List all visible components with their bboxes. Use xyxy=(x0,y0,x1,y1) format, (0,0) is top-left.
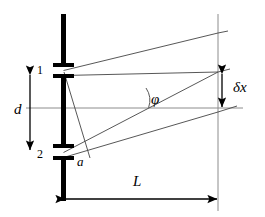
path-difference-label: a xyxy=(77,155,84,168)
slit-2-label: 2 xyxy=(37,148,43,160)
slit-separation-label: d xyxy=(14,102,22,117)
ray-2-lower xyxy=(64,112,219,158)
ray-1-lower-extension xyxy=(218,69,230,72)
ray-2-upper xyxy=(64,72,219,153)
ray-1-upper xyxy=(64,33,219,71)
screen-distance-label: L xyxy=(133,174,141,189)
ray-2-lower-extension xyxy=(218,106,237,112)
angle-label: φ xyxy=(151,92,159,107)
fringe-shift-label: δx xyxy=(233,80,247,95)
slit-1-label: 1 xyxy=(37,64,43,76)
angle-arc-phi xyxy=(146,88,150,108)
diffraction-figure: d L φ δx a 1 2 xyxy=(0,0,265,217)
ray-1-lower xyxy=(64,72,219,76)
ray-1-upper-extension xyxy=(218,31,228,33)
